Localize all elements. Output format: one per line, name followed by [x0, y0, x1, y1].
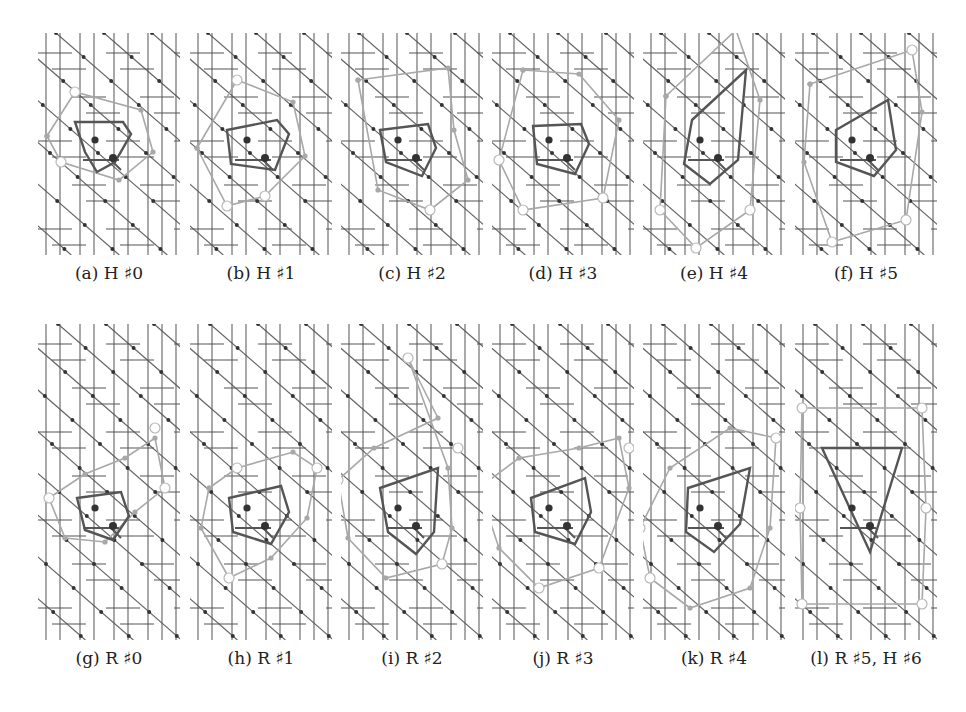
panel-g	[38, 324, 180, 640]
panel-a	[38, 33, 180, 255]
caption-e: (e) H ♯4	[629, 263, 799, 283]
caption-l: (l) R ♯5, H ♯6	[781, 648, 951, 668]
lattice-diagram	[492, 324, 634, 640]
caption-c: (c) H ♯2	[327, 263, 497, 283]
caption-b: (b) H ♯1	[176, 263, 346, 283]
panel-f	[795, 33, 937, 255]
lattice-diagram	[795, 33, 937, 255]
lattice-diagram	[341, 33, 483, 255]
panel-k	[643, 324, 785, 640]
lattice-diagram	[643, 33, 785, 255]
panel-e	[643, 33, 785, 255]
caption-i: (i) R ♯2	[327, 648, 497, 668]
panel-i	[341, 324, 483, 640]
lattice-diagram	[38, 33, 180, 255]
panel-j	[492, 324, 634, 640]
caption-d: (d) H ♯3	[478, 263, 648, 283]
lattice-diagram	[492, 33, 634, 255]
panel-b	[190, 33, 332, 255]
lattice-diagram	[643, 324, 785, 640]
lattice-diagram	[190, 324, 332, 640]
caption-a: (a) H ♯0	[24, 263, 194, 283]
lattice-diagram	[795, 324, 937, 640]
lattice-diagram	[341, 324, 483, 640]
lattice-diagram	[190, 33, 332, 255]
panel-d	[492, 33, 634, 255]
caption-g: (g) R ♯0	[24, 648, 194, 668]
panel-h	[190, 324, 332, 640]
panel-c	[341, 33, 483, 255]
panel-l	[795, 324, 937, 640]
lattice-diagram	[38, 324, 180, 640]
caption-j: (j) R ♯3	[478, 648, 648, 668]
caption-k: (k) R ♯4	[629, 648, 799, 668]
caption-f: (f) H ♯5	[781, 263, 951, 283]
caption-h: (h) R ♯1	[176, 648, 346, 668]
